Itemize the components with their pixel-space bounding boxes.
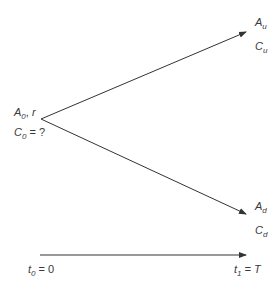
root-claim-label: C0 = ? <box>14 126 45 141</box>
up-asset-label: Au <box>255 16 267 31</box>
root-asset-label: A0, r <box>14 106 36 121</box>
time-start-label: t0 = 0 <box>28 263 54 278</box>
down-claim-label: Cd <box>255 224 267 239</box>
up-branch-arrow <box>41 32 246 119</box>
up-claim-label: Cu <box>255 40 267 55</box>
time-end-label: t1 = T <box>234 263 261 278</box>
down-branch-arrow <box>41 119 246 214</box>
down-asset-label: Ad <box>255 200 267 215</box>
tree-diagram <box>0 0 280 289</box>
